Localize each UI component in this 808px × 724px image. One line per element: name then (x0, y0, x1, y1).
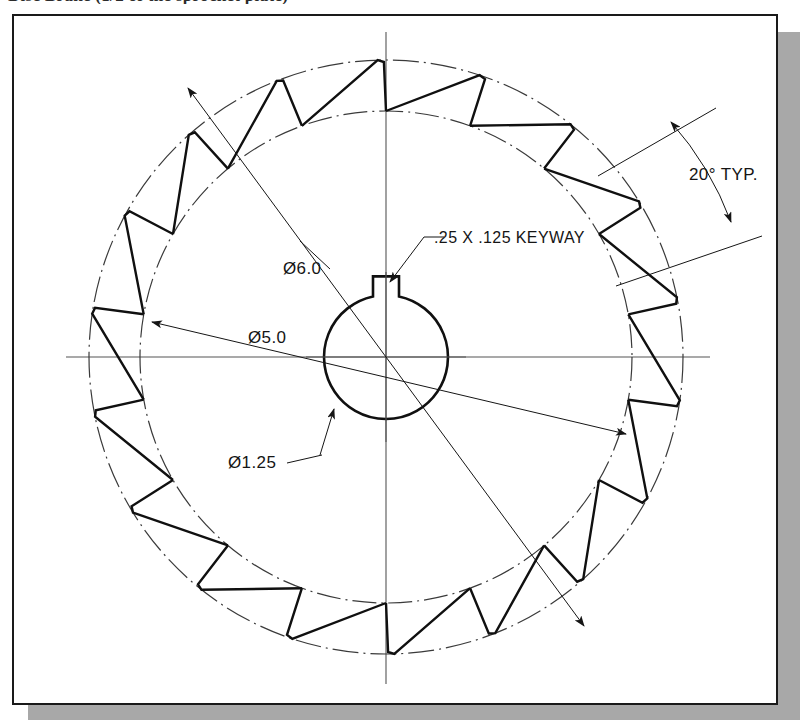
inner-diameter-dim-line (152, 322, 626, 434)
dim-outer-diameter: Ø6.0 (283, 259, 321, 278)
blade (599, 234, 677, 314)
blade (302, 60, 386, 126)
blade (386, 588, 470, 654)
blade (95, 400, 173, 480)
blade (287, 588, 386, 639)
blade (92, 308, 144, 400)
bore-leader-line (320, 409, 334, 455)
blade (544, 169, 640, 234)
dimension-labels: Ø6.0Ø5.0Ø1.25.25 X .125 KEYWAY20° TYP. (228, 165, 758, 472)
centerlines (66, 32, 710, 684)
dim-bore-diameter: Ø1.25 (228, 453, 276, 472)
screenshot-root: Disc Brake (1/2 of the sprocket plate) (0, 0, 808, 724)
blade (173, 132, 228, 234)
engineering-drawing: Ø6.0Ø5.0Ø1.25.25 X .125 KEYWAY20° TYP. (0, 0, 808, 724)
blade (470, 124, 574, 168)
blade (599, 400, 647, 503)
blade (386, 75, 485, 126)
dim-inner-diameter: Ø5.0 (248, 328, 286, 347)
blade (544, 480, 599, 582)
blade (470, 545, 544, 633)
inner-diameter-dimension (152, 322, 626, 434)
note-keyway: .25 X .125 KEYWAY (434, 229, 585, 246)
keyway-leader-line (390, 237, 424, 282)
blade (628, 314, 680, 406)
blade (132, 480, 228, 545)
angle-extension-line-b (616, 236, 762, 286)
blade (228, 81, 302, 169)
bore-diameter-leader (287, 409, 334, 463)
blade (198, 545, 302, 589)
dim-blade-angle: 20° TYP. (689, 165, 758, 184)
bore-leader-shoulder (287, 455, 322, 463)
blade (125, 211, 173, 314)
drawing-geometry (66, 32, 762, 684)
